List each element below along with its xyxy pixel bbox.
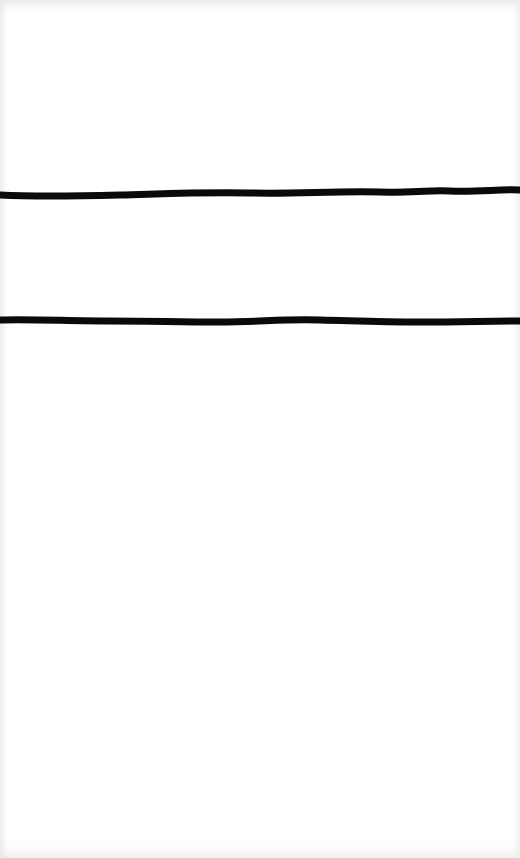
upper-hand-drawn-line xyxy=(0,180,520,208)
paper-sheet xyxy=(0,0,520,858)
lower-hand-drawn-line xyxy=(0,308,520,336)
